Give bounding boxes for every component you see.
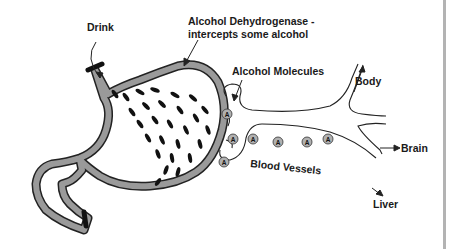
molecule: A [323,134,333,144]
svg-text:A: A [276,139,281,146]
molecule: A [248,134,258,144]
svg-text:A: A [222,159,227,166]
molecule: A [219,157,229,167]
label-drink: Drink [87,21,114,33]
enzyme-arrow [186,40,198,62]
svg-text:A: A [225,111,230,118]
label-enzyme-line2: intercepts some alcohol [188,28,308,40]
stomach [36,64,224,230]
label-alcohol-molecules: Alcohol Molecules [232,65,324,77]
alcohol-molecules: A A A A A A A [219,109,333,167]
svg-text:A: A [305,139,310,146]
molecule: A [302,137,312,147]
svg-text:A: A [251,136,256,143]
svg-text:A: A [231,136,236,143]
label-liver: Liver [373,198,398,210]
duodenum-end [84,212,86,226]
esophagus-opening [88,64,102,70]
molecule: A [273,137,283,147]
molecule: A [222,109,232,119]
label-enzyme-line1: Alcohol Dehydrogenase - [188,15,315,27]
label-brain: Brain [401,142,428,154]
right-border [443,0,446,249]
arrows [91,40,400,196]
svg-text:A: A [326,136,331,143]
label-body: Body [355,75,381,87]
molecule: A [228,134,238,144]
